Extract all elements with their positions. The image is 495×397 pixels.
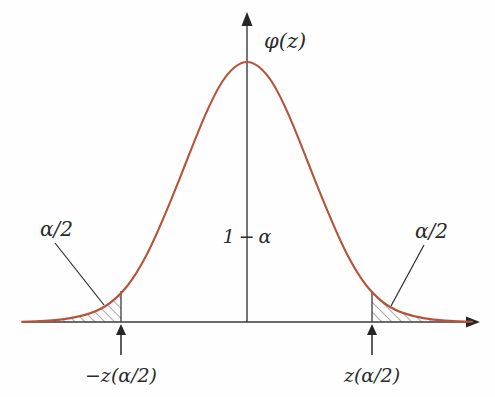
left-critical-tick-marker [116,324,126,355]
left-alpha-leader-line [55,243,104,305]
right-tail-area-label: α/2 [415,219,448,243]
right-critical-value-label: z(α/2) [343,364,400,386]
normal-distribution-figure: φ(z) 1 − α α/2 α/2 −z(α/2) z(α/2) [0,0,495,397]
right-critical-tick-marker [367,324,377,355]
right-up-arrow-icon [367,324,377,335]
distribution-chart-svg: φ(z) 1 − α α/2 α/2 −z(α/2) z(α/2) [0,0,495,397]
left-critical-value-label: −z(α/2) [85,364,157,386]
y-axis-label: φ(z) [264,29,306,53]
left-up-arrow-icon [116,324,126,335]
center-area-label: 1 − α [223,225,272,247]
y-axis [242,12,253,322]
y-axis-arrow-icon [242,12,253,26]
left-tail-area-label: α/2 [40,217,73,241]
right-alpha-leader-line [391,245,424,306]
